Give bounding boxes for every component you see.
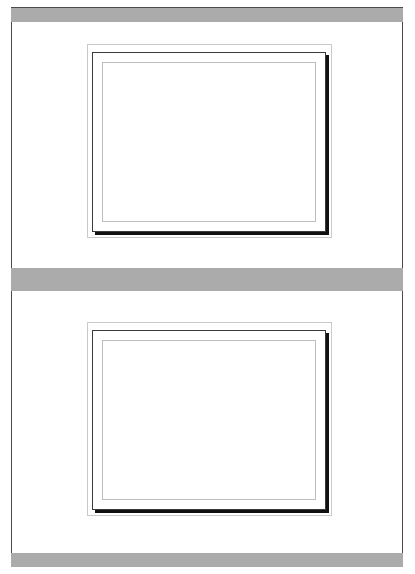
- image-frame-bottom-border: [92, 330, 326, 510]
- page-root: [0, 0, 415, 574]
- image-frame-bottom-content: [103, 341, 315, 499]
- separator-band-middle: [11, 268, 403, 291]
- image-frame-top-content: [103, 63, 315, 221]
- image-frame-bottom-inner-border: [102, 340, 316, 500]
- image-frame-top-border: [92, 52, 326, 232]
- image-frame-top[interactable]: [87, 44, 332, 238]
- image-frame-bottom[interactable]: [87, 322, 332, 516]
- separator-band-top: [11, 8, 403, 22]
- separator-band-bottom: [11, 553, 403, 567]
- image-frame-top-inner-border: [102, 62, 316, 222]
